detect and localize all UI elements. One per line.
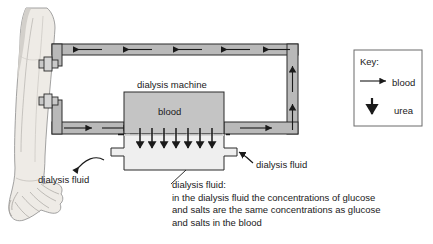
key-entry-label-blood: blood [392,77,415,89]
label-dialysis-fluid-left: dialysis fluid [38,174,89,186]
caption-block: dialysis fluid: in the dialysis fluid th… [172,179,381,229]
label-blood: blood [158,106,181,118]
caption-line-3: and salts in the blood [172,217,381,230]
leader-fluid-right [239,152,253,163]
dialysis-machine-unit [111,92,237,170]
caption-line-1: in the dialysis fluid the concentrations… [172,192,381,205]
label-dialysis-machine: dialysis machine [137,79,207,91]
dialysis-diagram: dialysis machine blood dialysis fluid di… [0,0,433,244]
dialysis-fluid-compartment [111,135,237,170]
caption-line-2: and salts are the same concentrations as… [172,204,381,217]
key-entry-label-urea: urea [394,105,413,117]
leader-fluid-left [75,158,104,172]
caption-heading: dialysis fluid: [172,179,381,192]
label-dialysis-fluid-right: dialysis fluid [256,159,307,171]
key-title: Key: [360,56,379,68]
